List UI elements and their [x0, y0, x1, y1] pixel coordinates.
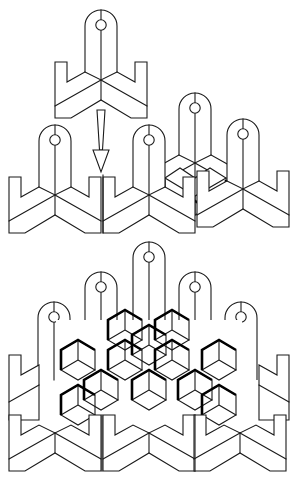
row-assembly [9, 93, 289, 233]
diagram-canvas: Interlocking tab-piece tessellation asse… [0, 0, 299, 490]
single-piece [55, 10, 147, 118]
insert-arrow-icon [93, 110, 109, 172]
full-assembly [9, 242, 289, 471]
hex-field [56, 310, 242, 425]
